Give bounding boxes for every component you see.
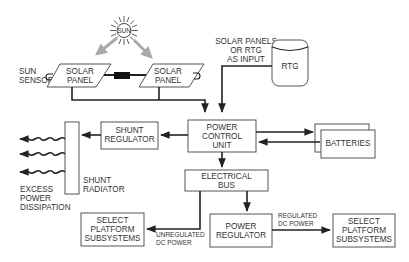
- sun-label: SUN: [117, 27, 131, 34]
- svg-text:POWER: POWER: [207, 123, 238, 132]
- svg-text:REGULATOR: REGULATOR: [104, 135, 154, 144]
- wire-rtg-to-pcu: [222, 66, 272, 112]
- svg-text:SUBSYSTEMS: SUBSYSTEMS: [336, 235, 393, 244]
- svg-text:REGULATED: REGULATED: [278, 212, 318, 219]
- solar-panel-left: SOLAR PANEL: [47, 64, 111, 87]
- svg-text:BATTERIES: BATTERIES: [326, 139, 371, 148]
- shunt-regulator: SHUNT REGULATOR: [101, 122, 158, 149]
- rtg: RTG: [272, 40, 308, 86]
- svg-text:SELECT: SELECT: [348, 217, 380, 226]
- svg-text:PANEL: PANEL: [155, 76, 182, 85]
- unregulated-dc-label: UNREGULATED DC POWER: [156, 231, 205, 246]
- power-regulator: POWER REGULATOR: [210, 214, 272, 247]
- heat-dissipation-waves: [20, 138, 65, 174]
- svg-text:DC POWER: DC POWER: [156, 239, 192, 246]
- svg-text:SUN: SUN: [19, 67, 36, 76]
- batteries: BATTERIES: [315, 124, 375, 158]
- svg-text:REGULATOR: REGULATOR: [216, 231, 266, 240]
- regulated-dc-label: REGULATED DC POWER: [278, 212, 318, 227]
- svg-text:SHUNT: SHUNT: [83, 176, 111, 185]
- panel-hinge: [104, 72, 146, 79]
- svg-text:SHUNT: SHUNT: [115, 126, 143, 135]
- wire-bus-to-platform-left: [147, 191, 200, 229]
- svg-text:SOLAR: SOLAR: [154, 67, 182, 76]
- svg-text:SOLAR: SOLAR: [66, 67, 94, 76]
- power-control-unit: POWER CONTROL UNIT: [188, 120, 256, 152]
- sun-sensor: SUN SENSOR: [19, 67, 54, 85]
- input-note: SOLAR PANELS OR RTG AS INPUT: [215, 37, 277, 64]
- power-system-diagram: SUN SUN SENSOR SOLAR PANEL SOLAR PANEL S…: [0, 0, 409, 262]
- svg-text:DC POWER: DC POWER: [278, 220, 314, 227]
- svg-text:PANEL: PANEL: [67, 76, 94, 85]
- select-platform-left: SELECT PLATFORM SUBSYSTEMS: [81, 213, 144, 246]
- svg-text:SOLAR PANELS: SOLAR PANELS: [215, 37, 277, 46]
- svg-text:BUS: BUS: [218, 181, 235, 190]
- svg-text:SELECT: SELECT: [97, 216, 129, 225]
- svg-text:UNIT: UNIT: [212, 141, 231, 150]
- svg-text:PLATFORM: PLATFORM: [91, 225, 135, 234]
- svg-text:POWER: POWER: [226, 222, 257, 231]
- svg-text:OR RTG: OR RTG: [230, 46, 262, 55]
- select-platform-right: SELECT PLATFORM SUBSYSTEMS: [333, 214, 395, 247]
- svg-text:CONTROL: CONTROL: [202, 132, 242, 141]
- excess-power-label: EXCESS POWER DISSIPATION: [20, 185, 71, 212]
- svg-text:RTG: RTG: [281, 62, 298, 71]
- svg-text:POWER: POWER: [20, 194, 51, 203]
- solar-panel-right: SOLAR PANEL: [139, 64, 204, 87]
- svg-text:ELECTRICAL: ELECTRICAL: [201, 172, 252, 181]
- svg-text:UNREGULATED: UNREGULATED: [156, 231, 205, 238]
- wire-solar-to-pcu: [72, 87, 205, 112]
- svg-text:EXCESS: EXCESS: [20, 185, 54, 194]
- svg-text:AS INPUT: AS INPUT: [227, 55, 265, 64]
- svg-text:PLATFORM: PLATFORM: [342, 226, 386, 235]
- light-ray-left: [97, 38, 117, 54]
- svg-text:DISSIPATION: DISSIPATION: [20, 203, 71, 212]
- svg-text:SUBSYSTEMS: SUBSYSTEMS: [85, 234, 142, 243]
- light-ray-right: [134, 40, 151, 57]
- electrical-bus: ELECTRICAL BUS: [185, 170, 268, 191]
- svg-text:RADIATOR: RADIATOR: [83, 185, 125, 194]
